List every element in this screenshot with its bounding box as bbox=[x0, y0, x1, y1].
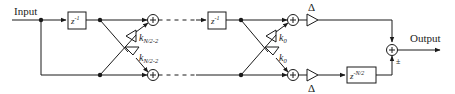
output-label: Output bbox=[410, 32, 441, 44]
cross-down-1 bbox=[100, 20, 128, 52]
junction-dot bbox=[98, 73, 102, 77]
delay-label-2: z-1 bbox=[210, 15, 220, 26]
gain-label-top: Δ bbox=[308, 1, 315, 13]
lattice-filter-diagram: Input Output z-1 z-1 z-N/2 kN/2-2 kN/2-2… bbox=[0, 0, 455, 94]
coef-label-top-1: kN/2-2 bbox=[139, 32, 159, 44]
coef-label-top-2: k0 bbox=[279, 32, 287, 44]
coef-label-bottom-2: k0 bbox=[279, 52, 287, 64]
junction-dot bbox=[98, 18, 102, 22]
coef-label-bottom-1: kN/2-2 bbox=[139, 52, 159, 64]
junction-dot bbox=[239, 73, 243, 77]
gain-label-bottom: Δ bbox=[308, 82, 315, 94]
gain-delta-bottom bbox=[307, 69, 318, 81]
delay-label-final: z-N/2 bbox=[349, 70, 364, 81]
junction-dot bbox=[239, 18, 243, 22]
gain-delta-top bbox=[307, 14, 318, 26]
junction-dot bbox=[39, 18, 43, 22]
input-label: Input bbox=[14, 5, 37, 17]
delay-label-1: z-1 bbox=[70, 15, 80, 26]
coef-top-out-1 bbox=[136, 23, 148, 32]
final-adder-sign: ± bbox=[396, 57, 401, 66]
